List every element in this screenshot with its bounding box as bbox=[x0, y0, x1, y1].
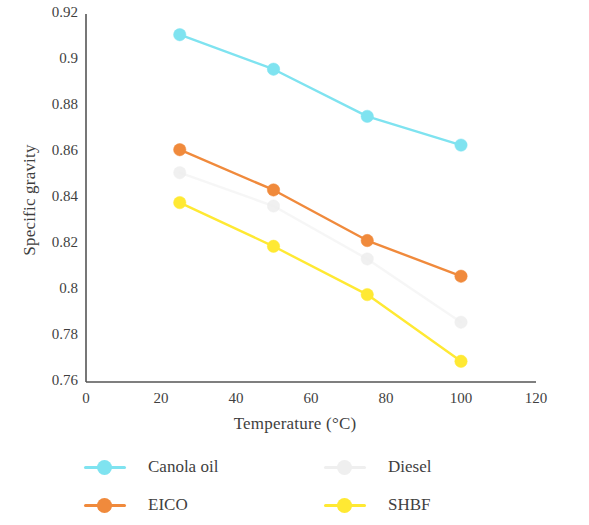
series-line-shbf bbox=[180, 203, 461, 362]
data-point-diesel-100[interactable] bbox=[455, 316, 467, 328]
y-tick-label: 0.84 bbox=[24, 188, 78, 205]
x-tick-label: 0 bbox=[61, 390, 111, 407]
data-point-eico-75[interactable] bbox=[361, 234, 373, 246]
legend-item-canola-oil[interactable]: Canola oil bbox=[84, 454, 218, 480]
x-tick-label: 120 bbox=[511, 390, 561, 407]
data-point-canola-oil-75[interactable] bbox=[361, 110, 373, 122]
legend-item-shbf[interactable]: SHBF bbox=[324, 492, 431, 518]
legend-label: EICO bbox=[148, 495, 188, 515]
y-tick-label: 0.9 bbox=[24, 50, 78, 67]
x-axis-title: Temperature (°C) bbox=[150, 414, 440, 434]
y-tick-label: 0.88 bbox=[24, 96, 78, 113]
legend-label: SHBF bbox=[388, 495, 431, 515]
x-tick-label: 80 bbox=[361, 390, 411, 407]
data-point-canola-oil-100[interactable] bbox=[455, 139, 467, 151]
x-tick-label: 20 bbox=[136, 390, 186, 407]
legend-marker-icon bbox=[337, 498, 352, 513]
legend-item-eico[interactable]: EICO bbox=[84, 492, 188, 518]
data-point-shbf-25[interactable] bbox=[174, 196, 186, 208]
series-line-canola-oil bbox=[180, 35, 461, 145]
legend-marker-icon bbox=[337, 460, 352, 475]
legend-swatch-line bbox=[84, 466, 126, 469]
chart-figure: Specific gravity Temperature (°C) 0.760.… bbox=[0, 0, 589, 525]
data-point-diesel-50[interactable] bbox=[267, 200, 279, 212]
data-point-canola-oil-50[interactable] bbox=[267, 63, 279, 75]
series-line-diesel bbox=[180, 173, 461, 323]
legend-label: Canola oil bbox=[148, 457, 218, 477]
x-tick-label: 100 bbox=[436, 390, 486, 407]
data-point-diesel-75[interactable] bbox=[361, 253, 373, 265]
chart-plot-area bbox=[0, 0, 589, 525]
series-line-eico bbox=[180, 150, 461, 277]
legend-label: Diesel bbox=[388, 457, 431, 477]
y-tick-label: 0.82 bbox=[24, 234, 78, 251]
legend-marker-icon bbox=[97, 498, 112, 513]
x-tick-label: 60 bbox=[286, 390, 336, 407]
y-tick-label: 0.92 bbox=[24, 4, 78, 21]
legend-marker-icon bbox=[97, 460, 112, 475]
legend-swatch-line bbox=[324, 466, 366, 469]
data-point-shbf-50[interactable] bbox=[267, 240, 279, 252]
data-point-diesel-25[interactable] bbox=[174, 167, 186, 179]
y-tick-label: 0.78 bbox=[24, 326, 78, 343]
legend-item-diesel[interactable]: Diesel bbox=[324, 454, 431, 480]
data-point-shbf-75[interactable] bbox=[361, 288, 373, 300]
y-tick-label: 0.86 bbox=[24, 142, 78, 159]
legend-swatch-line bbox=[324, 504, 366, 507]
data-point-canola-oil-25[interactable] bbox=[174, 29, 186, 41]
chart-legend: Canola oil Diesel EICO SHBF bbox=[70, 452, 540, 522]
legend-swatch-line bbox=[84, 504, 126, 507]
data-point-eico-50[interactable] bbox=[267, 184, 279, 196]
data-point-eico-25[interactable] bbox=[174, 144, 186, 156]
x-tick-label: 40 bbox=[211, 390, 261, 407]
data-point-eico-100[interactable] bbox=[455, 270, 467, 282]
y-tick-label: 0.8 bbox=[24, 280, 78, 297]
data-point-shbf-100[interactable] bbox=[455, 355, 467, 367]
y-tick-label: 0.76 bbox=[24, 372, 78, 389]
